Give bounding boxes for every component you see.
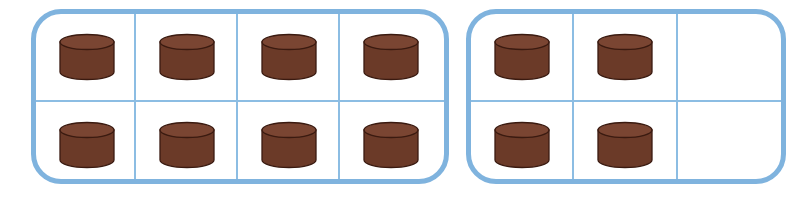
cell-r1c3 <box>678 14 780 100</box>
counter-icon <box>260 121 318 169</box>
ten-frame-1 <box>31 9 449 184</box>
counter-icon <box>596 121 654 169</box>
counter-icon <box>362 121 420 169</box>
cell-r1c1 <box>471 14 573 100</box>
cell-r2c1 <box>36 102 138 184</box>
counter-icon <box>362 33 420 81</box>
ten-frame-2 <box>466 9 786 184</box>
cell-r2c2 <box>136 102 238 184</box>
counter-icon <box>493 33 551 81</box>
cell-r2c2 <box>574 102 676 184</box>
cell-r2c4 <box>340 102 442 184</box>
cell-r2c1 <box>471 102 573 184</box>
cell-r1c2 <box>136 14 238 100</box>
counter-icon <box>493 121 551 169</box>
cell-r1c2 <box>574 14 676 100</box>
counter-icon <box>58 121 116 169</box>
cell-r1c4 <box>340 14 442 100</box>
cell-r2c3 <box>678 102 780 184</box>
cell-r1c3 <box>238 14 340 100</box>
counter-icon <box>158 33 216 81</box>
counter-icon <box>58 33 116 81</box>
counter-icon <box>158 121 216 169</box>
cell-r2c3 <box>238 102 340 184</box>
counter-icon <box>260 33 318 81</box>
counter-icon <box>596 33 654 81</box>
cell-r1c1 <box>36 14 138 100</box>
